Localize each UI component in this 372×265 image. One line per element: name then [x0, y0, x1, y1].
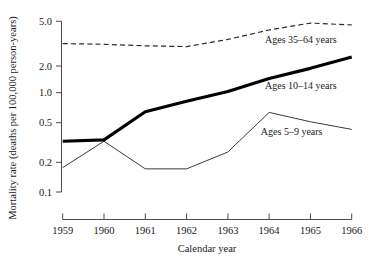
y-tick-label-3: 1.0	[39, 87, 52, 98]
y-tick-label-1: 0.2	[39, 157, 52, 168]
x-tick-label-2: 1961	[135, 225, 156, 236]
y-tick-label-0: 0.1	[39, 187, 52, 198]
y-tick-label-4: 2.0	[39, 61, 52, 72]
y-tick-label-5: 5.0	[39, 16, 52, 27]
y-tick-group	[56, 21, 62, 192]
x-tick-label-6: 1965	[300, 225, 321, 236]
y-tick-label-2: 0.5	[39, 117, 52, 128]
series-line-ages-5-9	[63, 112, 352, 168]
x-tick-label-7: 1966	[341, 225, 362, 236]
chart-figure: Mortality rate (deaths per 100,000 perso…	[0, 0, 372, 265]
y-axis-title: Mortality rate (deaths per 100,000 perso…	[7, 16, 19, 220]
x-tick-group	[63, 214, 352, 220]
x-axis: 1959 1960 1961 1962 1963 1964 1965 1966 …	[52, 214, 362, 255]
x-tick-label-3: 1962	[176, 225, 197, 236]
x-tick-label-4: 1963	[217, 225, 238, 236]
x-tick-label-1: 1960	[94, 225, 115, 236]
x-axis-title: Calendar year	[178, 243, 237, 254]
x-tick-label-0: 1959	[52, 225, 73, 236]
series-label-ages-35-64: Ages 35–64 years	[265, 34, 337, 45]
y-axis: 5.0 2.0 1.0 0.5 0.2 0.1	[39, 16, 62, 198]
x-tick-label-5: 1964	[259, 225, 281, 236]
chart-svg: Mortality rate (deaths per 100,000 perso…	[0, 0, 372, 265]
series-label-ages-5-9: Ages 5–9 years	[261, 126, 323, 137]
series-label-ages-10-14: Ages 10–14 years	[265, 80, 337, 91]
